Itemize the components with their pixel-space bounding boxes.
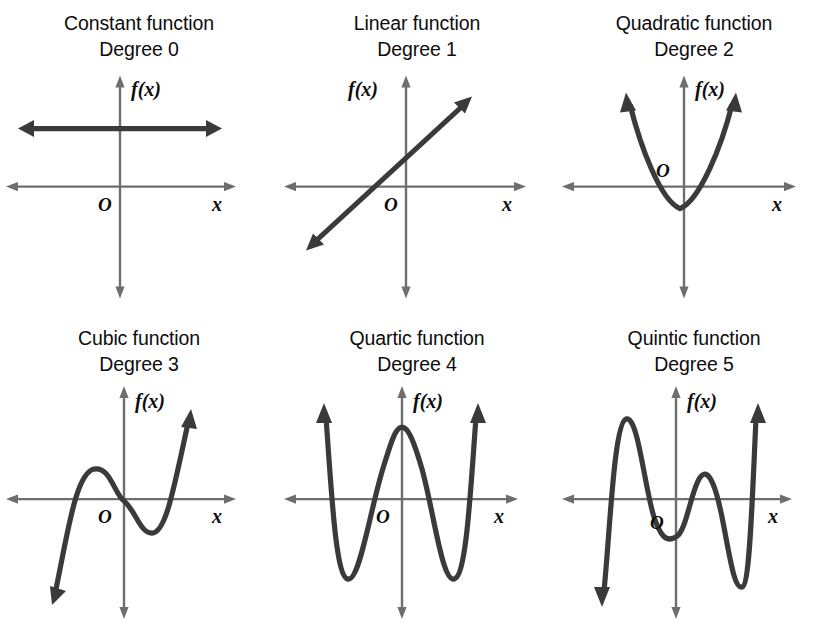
origin-label: O (384, 193, 398, 214)
curve-arrow-upper-right-icon (470, 403, 486, 423)
y-axis-arrow-down-icon (115, 286, 124, 298)
graph-area-constant: f(x) x O (0, 63, 278, 310)
y-axis-arrow-down-icon (401, 286, 410, 298)
function-curve-linear (306, 96, 472, 250)
y-axis-arrow-up-icon (671, 386, 680, 398)
panel-constant-function: Constant function Degree 0 f(x) (0, 0, 278, 310)
graph-area-quadratic: f(x) x O (556, 63, 832, 310)
x-axis-arrow-left-icon (6, 182, 18, 191)
graph-svg-constant: f(x) x O (0, 63, 278, 310)
y-axis-arrow-up-icon (397, 386, 406, 398)
x-axis-arrow-left-icon (284, 182, 296, 191)
y-axis-label: f(x) (135, 390, 165, 413)
panel-linear-function: Linear function Degree 1 f(x) (278, 0, 556, 310)
panel-title: Constant function Degree 0 (64, 11, 214, 63)
panel-quintic-function: Quintic function Degree 5 f(x) (556, 310, 832, 630)
graph-svg-quadratic: f(x) x O (556, 63, 832, 310)
curve-path (56, 423, 188, 589)
polynomial-functions-figure: Constant function Degree 0 f(x) (0, 0, 832, 630)
curve-arrow-right-icon (206, 120, 222, 137)
x-axis-arrow-left-icon (284, 494, 296, 503)
x-axis-arrow-right-icon (514, 182, 526, 191)
x-axis-arrow-right-icon (224, 182, 236, 191)
panel-title-line1: Quintic function (628, 326, 761, 352)
panel-quartic-function: Quartic function Degree 4 f(x) (278, 310, 556, 630)
curve-path (630, 104, 732, 208)
panel-title-line1: Quartic function (350, 326, 485, 352)
axes (284, 75, 526, 298)
panel-title-line2: Degree 0 (64, 37, 214, 63)
x-axis-arrow-right-icon (224, 494, 236, 503)
panel-title: Linear function Degree 1 (354, 11, 480, 63)
panel-title: Quadratic function Degree 2 (616, 11, 772, 63)
x-axis-arrow-right-icon (780, 494, 792, 503)
panel-title-line1: Linear function (354, 11, 480, 37)
axes (562, 75, 796, 298)
y-axis-label: f(x) (687, 390, 717, 413)
graph-area-quintic: f(x) x O (556, 378, 832, 630)
curve-arrow-upper-left-icon (316, 403, 332, 423)
y-axis-label: f(x) (131, 77, 161, 100)
y-axis-arrow-up-icon (679, 75, 688, 87)
panel-title-line1: Constant function (64, 11, 214, 37)
y-axis-arrow-down-icon (119, 607, 128, 619)
panel-title: Quartic function Degree 4 (350, 326, 485, 378)
function-curve-quadratic (620, 92, 742, 208)
x-axis-label: x (493, 505, 504, 527)
curve-arrow-upper-right-icon (750, 403, 766, 423)
panel-title-line1: Cubic function (78, 326, 200, 352)
graph-area-quartic: f(x) x O (278, 378, 556, 630)
panel-title-line2: Degree 1 (354, 37, 480, 63)
graph-area-cubic: f(x) x O (0, 378, 278, 630)
curve-arrow-upper-left-icon (620, 92, 636, 112)
graph-svg-linear: f(x) x O (278, 63, 556, 310)
y-axis-arrow-up-icon (115, 75, 124, 87)
panel-title-line1: Quadratic function (616, 11, 772, 37)
x-axis-label: x (767, 505, 778, 527)
curve-arrow-lower-left-icon (594, 587, 610, 607)
curve-path (314, 104, 464, 242)
y-axis-arrow-down-icon (679, 286, 688, 298)
graph-area-linear: f(x) x O (278, 63, 556, 310)
curve-path (604, 419, 756, 591)
x-axis-arrow-left-icon (562, 494, 574, 503)
graph-svg-cubic: f(x) x O (0, 378, 278, 630)
curve-arrow-upper-right-icon (181, 409, 197, 429)
panel-title: Quintic function Degree 5 (628, 326, 761, 378)
x-axis-label: x (211, 192, 222, 214)
curve-arrow-upper-right-icon (726, 92, 742, 112)
graph-svg-quartic: f(x) x O (278, 378, 556, 630)
y-axis-label: f(x) (348, 77, 378, 100)
x-axis-arrow-left-icon (562, 182, 574, 191)
y-axis-arrow-up-icon (401, 75, 410, 87)
origin-label: O (650, 512, 664, 533)
y-axis-arrow-up-icon (119, 386, 128, 398)
x-axis-label: x (211, 505, 222, 527)
origin-label: O (98, 193, 112, 214)
y-axis-label: f(x) (413, 390, 443, 413)
axes (6, 75, 236, 298)
x-axis-label: x (501, 192, 512, 214)
x-axis-arrow-right-icon (784, 182, 796, 191)
panel-title-line2: Degree 5 (628, 352, 761, 378)
x-axis-label: x (771, 192, 782, 214)
axes (6, 386, 236, 619)
panel-quadratic-function: Quadratic function Degree 2 f(x) (556, 0, 832, 310)
origin-label: O (656, 159, 670, 180)
function-curve-quintic (594, 403, 766, 607)
y-axis-arrow-down-icon (397, 607, 406, 619)
y-axis-arrow-down-icon (671, 607, 680, 619)
x-axis-arrow-right-icon (506, 494, 518, 503)
origin-label: O (98, 506, 112, 527)
origin-label: O (376, 506, 390, 527)
panel-title-line2: Degree 3 (78, 352, 200, 378)
panel-title-line2: Degree 2 (616, 37, 772, 63)
y-axis-label: f(x) (695, 77, 725, 100)
graph-svg-quintic: f(x) x O (556, 378, 832, 630)
x-axis-arrow-left-icon (6, 494, 18, 503)
curve-arrow-lower-left-icon (50, 586, 66, 605)
panel-title-line2: Degree 4 (350, 352, 485, 378)
curve-arrow-left-icon (18, 120, 34, 137)
panel-title: Cubic function Degree 3 (78, 326, 200, 378)
panel-cubic-function: Cubic function Degree 3 f(x) (0, 310, 278, 630)
